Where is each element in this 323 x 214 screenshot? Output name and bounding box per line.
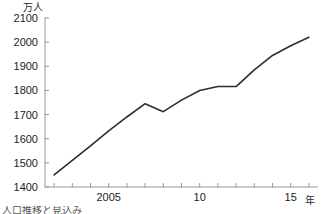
y-tick-label: 1600: [6, 133, 38, 145]
data-series-line: [54, 37, 309, 175]
y-tick-label: 1500: [6, 157, 38, 169]
caption-text: 人口推移と見込み: [2, 206, 82, 214]
x-tick-label: 10: [180, 191, 220, 203]
chart-container: 万人 21002000190018001700160015001400 2005…: [0, 0, 323, 214]
y-tick-label: 1700: [6, 109, 38, 121]
y-tick-label: 1800: [6, 84, 38, 96]
x-axis-unit-label: 年: [305, 192, 315, 207]
x-tick-label: 2005: [89, 191, 129, 203]
y-tick-label: 2000: [6, 36, 38, 48]
caption-strip: 人口推移と見込み: [0, 206, 323, 214]
line-chart-plot: [0, 0, 323, 214]
y-tick-label: 2100: [6, 12, 38, 24]
y-tick-label: 1900: [6, 60, 38, 72]
y-tick-label: 1400: [6, 181, 38, 193]
